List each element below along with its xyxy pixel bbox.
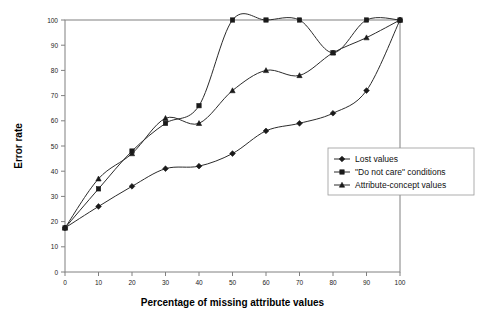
line-chart: 0102030405060708090100010203040506070809… — [0, 0, 479, 323]
x-tick-label: 30 — [162, 279, 170, 286]
data-point-2 — [364, 18, 368, 22]
series-3 — [62, 17, 402, 230]
data-point-2 — [197, 103, 201, 107]
data-point-3 — [196, 121, 201, 126]
y-tick-label: 100 — [47, 17, 58, 24]
y-tick-label: 0 — [54, 269, 58, 276]
y-tick-label: 90 — [51, 42, 59, 49]
data-point-2 — [297, 18, 301, 22]
chart-container: 0102030405060708090100010203040506070809… — [0, 0, 479, 323]
x-tick-label: 10 — [95, 279, 103, 286]
x-tick-label: 90 — [363, 279, 371, 286]
legend-label-2: "Do not care" conditions — [355, 167, 446, 177]
data-point-1 — [230, 151, 236, 157]
y-tick-label: 70 — [51, 92, 59, 99]
x-tick-label: 40 — [195, 279, 203, 286]
x-tick-label: 20 — [128, 279, 136, 286]
data-point-1 — [297, 120, 303, 126]
y-axis-title: Error rate — [13, 123, 24, 169]
data-point-2 — [163, 121, 167, 125]
x-tick-label: 70 — [296, 279, 304, 286]
plot-frame — [65, 20, 400, 272]
data-point-1 — [129, 183, 135, 189]
data-point-2 — [96, 187, 100, 191]
data-point-1 — [263, 128, 269, 134]
y-tick-label: 40 — [51, 168, 59, 175]
legend-label-1: Lost values — [355, 154, 398, 164]
legend-label-3: Attribute-concept values — [355, 180, 446, 190]
x-axis-title: Percentage of missing attribute values — [141, 297, 325, 308]
legend-marker-2 — [340, 170, 344, 174]
x-tick-label: 80 — [329, 279, 337, 286]
data-point-2 — [230, 18, 234, 22]
x-tick-label: 0 — [63, 279, 67, 286]
data-point-1 — [96, 204, 102, 210]
y-tick-label: 30 — [51, 193, 59, 200]
x-tick-label: 50 — [229, 279, 237, 286]
y-tick-label: 80 — [51, 67, 59, 74]
series-1 — [62, 17, 403, 231]
x-tick-label: 60 — [262, 279, 270, 286]
legend: Lost values"Do not care" conditionsAttri… — [328, 148, 474, 195]
x-tick-label: 100 — [395, 279, 406, 286]
data-point-3 — [364, 35, 369, 40]
data-point-1 — [330, 110, 336, 116]
y-tick-label: 20 — [51, 218, 59, 225]
data-point-1 — [163, 166, 169, 172]
y-tick-label: 60 — [51, 117, 59, 124]
y-tick-label: 50 — [51, 143, 59, 150]
series-line-1 — [65, 20, 400, 228]
y-tick-label: 10 — [51, 243, 59, 250]
data-point-2 — [264, 18, 268, 22]
data-point-1 — [196, 163, 202, 169]
